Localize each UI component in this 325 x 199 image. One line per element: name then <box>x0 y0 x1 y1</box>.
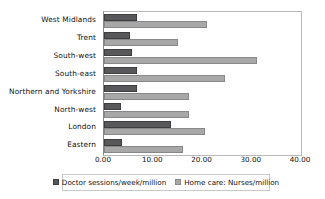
category-label: North-west <box>0 100 100 118</box>
plot-area <box>103 11 302 156</box>
category-label: Trent <box>0 29 100 47</box>
bar <box>104 39 178 46</box>
bar <box>104 139 122 146</box>
legend-label: Home care: Nurses/million <box>184 179 279 186</box>
bar-group <box>104 12 301 30</box>
legend-swatch-icon <box>175 179 181 185</box>
category-label: South-east <box>0 65 100 83</box>
axis-tick-label: 10.00 <box>142 156 163 163</box>
bar-rows <box>104 12 301 155</box>
bar-group <box>104 101 301 119</box>
bar <box>104 32 130 39</box>
category-label: London <box>0 118 100 136</box>
axis-tick-label: 40.00 <box>290 156 311 163</box>
bar <box>104 75 225 82</box>
bar <box>104 111 189 118</box>
bar-group <box>104 48 301 66</box>
bar <box>104 103 121 110</box>
axis-tick-label: 20.00 <box>191 156 212 163</box>
bar <box>104 93 189 100</box>
bar <box>104 67 137 74</box>
bar <box>104 57 257 64</box>
bar <box>104 49 132 56</box>
chart-legend: Doctor sessions/week/millionHome care: N… <box>62 174 270 191</box>
category-axis: West MidlandsTrentSouth-westSouth-eastNo… <box>0 11 100 154</box>
category-label: South-west <box>0 47 100 65</box>
axis-tick-label: 0.00 <box>95 156 111 163</box>
bar <box>104 146 183 153</box>
bar-group <box>104 137 301 155</box>
bar-group <box>104 66 301 84</box>
bar-group <box>104 84 301 102</box>
bar-chart: West MidlandsTrentSouth-westSouth-eastNo… <box>0 0 325 199</box>
category-label: Eastern <box>0 136 100 154</box>
value-axis: 0.0010.0020.0030.0040.00 <box>103 156 300 168</box>
bar <box>104 21 207 28</box>
bar <box>104 14 137 21</box>
legend-item[interactable]: Doctor sessions/week/million <box>53 179 166 186</box>
legend-swatch-icon <box>53 179 59 185</box>
bar-group <box>104 119 301 137</box>
bar <box>104 128 205 135</box>
bar <box>104 85 137 92</box>
legend-label: Doctor sessions/week/million <box>62 179 166 186</box>
legend-item[interactable]: Home care: Nurses/million <box>175 179 279 186</box>
axis-tick-label: 30.00 <box>240 156 261 163</box>
bar <box>104 121 171 128</box>
category-label: West Midlands <box>0 11 100 29</box>
category-label: Northern and Yorkshire <box>0 83 100 101</box>
bar-group <box>104 30 301 48</box>
